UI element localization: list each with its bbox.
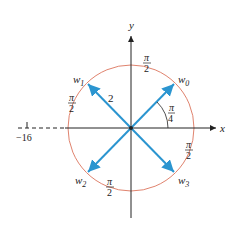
vector-w1 bbox=[88, 84, 131, 128]
root-label-w2: w2 bbox=[75, 174, 86, 189]
angle-den: 4 bbox=[168, 113, 173, 124]
arc-label-bottom-den: 2 bbox=[107, 187, 112, 198]
tick-label: −16 bbox=[16, 132, 32, 143]
angle-arc bbox=[157, 102, 168, 128]
origin-dot bbox=[129, 126, 133, 130]
diagram-canvas: y x −16 w0 w1 w2 w3 2 π 4 π 2 π 2 π 2 π … bbox=[0, 0, 236, 227]
arc-label-bottom-num: π bbox=[107, 176, 113, 187]
arc-label-top-den: 2 bbox=[144, 63, 149, 74]
angle-num: π bbox=[169, 102, 175, 113]
root-label-w1: w1 bbox=[73, 73, 84, 88]
root-label-w0: w0 bbox=[178, 73, 189, 88]
roots-of-unity-diagram: y x −16 w0 w1 w2 w3 2 π 4 π 2 π 2 π 2 π … bbox=[0, 0, 236, 227]
arc-label-top-num: π bbox=[144, 52, 150, 63]
x-axis-label: x bbox=[219, 122, 225, 134]
vector-w2 bbox=[88, 128, 131, 172]
vector-w3 bbox=[131, 128, 174, 172]
arc-label-right-den: 2 bbox=[186, 150, 191, 161]
radius-label: 2 bbox=[108, 92, 114, 104]
y-axis-label: y bbox=[128, 19, 134, 31]
arc-label-left-den: 2 bbox=[69, 103, 74, 114]
root-label-w3: w3 bbox=[178, 174, 189, 189]
